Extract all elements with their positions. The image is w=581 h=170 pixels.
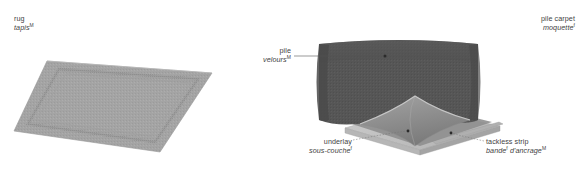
label-tackless-strip: tackless strip bandef d'ancrageM: [486, 137, 546, 155]
illustration-canvas: rug tapisM pile carpet moquettef pile ve…: [0, 0, 581, 170]
label-tackless-strip-fr-part2: d'ancrage: [508, 146, 542, 155]
label-pile-carpet-fr-text: moquette: [543, 23, 574, 32]
label-pile-fr-marker: M: [287, 54, 291, 60]
label-pile-carpet-fr: moquettef: [541, 23, 575, 32]
label-tackless-strip-fr-part1: bande: [486, 146, 506, 155]
label-tackless-strip-en: tackless strip: [486, 137, 546, 146]
label-pile-carpet: pile carpet moquettef: [541, 14, 575, 32]
label-underlay-fr-text: sous-couche: [309, 146, 351, 155]
label-underlay-fr-marker: f: [351, 145, 352, 151]
leader-dot-tackless: [450, 132, 453, 135]
label-pile-carpet-fr-marker: f: [574, 22, 575, 28]
label-underlay: underlay sous-couchef: [288, 137, 352, 155]
label-pile-fr: veloursM: [243, 55, 291, 64]
label-pile-fr-text: velours: [263, 55, 287, 64]
label-pile: pile veloursM: [243, 46, 291, 64]
leader-dot-pile: [384, 55, 387, 58]
rug-figure: [14, 61, 212, 152]
label-underlay-fr: sous-couchef: [288, 146, 352, 155]
label-tackless-strip-fr: bandef d'ancrageM: [486, 146, 546, 155]
label-rug-fr: tapisM: [14, 23, 34, 32]
label-pile-en: pile: [243, 46, 291, 55]
label-underlay-en: underlay: [288, 137, 352, 146]
label-tackless-strip-fr-marker2: M: [542, 145, 546, 151]
leader-dot-underlay: [407, 130, 410, 133]
rug-shading: [14, 61, 212, 152]
label-rug-fr-marker: M: [30, 22, 34, 28]
label-rug-fr-text: tapis: [14, 23, 30, 32]
label-pile-carpet-en: pile carpet: [541, 14, 575, 23]
label-rug: rug tapisM: [14, 14, 34, 32]
